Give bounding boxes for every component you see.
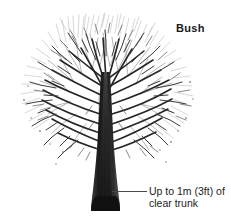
clear-trunk-callout: Up to 1m (3ft) of clear trunk xyxy=(149,185,231,210)
form-label: Bush xyxy=(176,22,205,34)
leader-line xyxy=(112,191,147,192)
bush-tree-diagram: Bush Up to 1m (3ft) of clear trunk xyxy=(0,0,231,224)
